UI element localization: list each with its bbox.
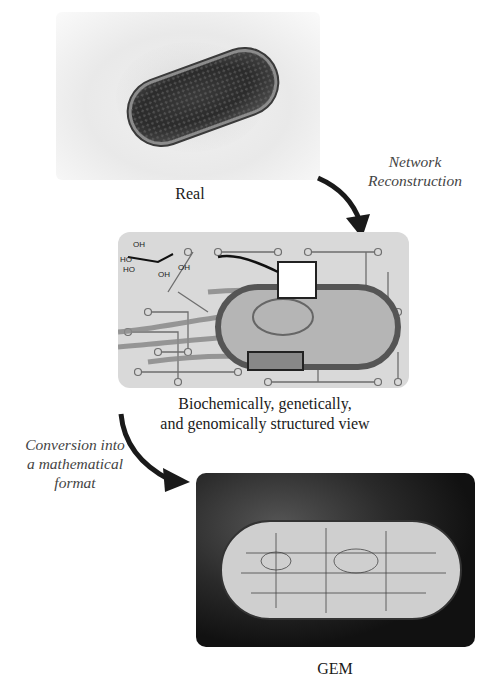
conversion-arrow-icon bbox=[115, 412, 195, 492]
real-caption: Real bbox=[155, 185, 225, 203]
svg-text:OH: OH bbox=[158, 270, 170, 279]
gem-caption: GEM bbox=[300, 660, 370, 678]
protein-structure-icon bbox=[278, 262, 316, 298]
svg-text:HO: HO bbox=[120, 255, 132, 264]
svg-text:HO: HO bbox=[123, 265, 135, 274]
gem-model-image bbox=[196, 473, 475, 647]
gem-cell-map bbox=[196, 473, 475, 647]
glucose-molecule-icon bbox=[128, 254, 173, 262]
gene-operon-icon bbox=[248, 352, 303, 370]
real-bacterium-image bbox=[56, 12, 320, 180]
svg-text:OH: OH bbox=[133, 240, 145, 249]
svg-text:OH: OH bbox=[178, 263, 190, 272]
metabolic-network-diagram: OH HO HO OH OH bbox=[118, 232, 409, 388]
network-reconstruction-arrow-icon bbox=[310, 170, 380, 240]
network-view-panel: OH HO HO OH OH bbox=[118, 232, 409, 388]
protein-to-reaction-arrow-icon bbox=[218, 256, 278, 272]
